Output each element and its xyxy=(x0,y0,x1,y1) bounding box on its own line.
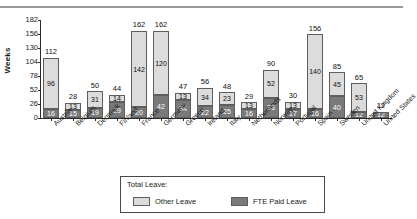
bar-total-label: 56 xyxy=(193,78,217,86)
bar-segment-other-leave[interactable]: 140 xyxy=(307,34,323,109)
bar-segment-value: 13 xyxy=(179,93,187,100)
bar-group[interactable]: 16140156 xyxy=(304,20,326,118)
bar-total-label: 50 xyxy=(83,82,107,90)
bar-segment-value: 142 xyxy=(133,66,145,73)
bar-total-label: 48 xyxy=(215,83,239,91)
bar-total-label: 90 xyxy=(259,60,283,68)
bar-group[interactable]: 252348 xyxy=(216,20,238,118)
bar-total-label: 28 xyxy=(61,93,85,101)
bar-segment-value: 14 xyxy=(113,95,121,102)
bar-segment-value: 45 xyxy=(333,81,341,88)
legend-title: Total Leave: xyxy=(127,181,167,189)
y-axis-tick-label: 156 xyxy=(25,30,38,38)
bar-total-label: 162 xyxy=(127,21,151,29)
y-axis-tick-label: 182 xyxy=(25,16,38,24)
bar-group[interactable]: 20142162 xyxy=(128,20,150,118)
bar-total-label: 85 xyxy=(325,63,349,71)
legend-item-other-leave[interactable]: Other Leave xyxy=(133,197,196,206)
bar-group[interactable]: 171330 xyxy=(282,20,304,118)
bar-segment-other-leave[interactable]: 120 xyxy=(153,31,169,96)
legend-entries: Other Leave FTE Paid Leave xyxy=(127,197,322,209)
bar-group[interactable]: 223456 xyxy=(194,20,216,118)
bar-group[interactable]: 161329 xyxy=(238,20,260,118)
y-axis-tick-label: 130 xyxy=(25,44,38,52)
bar-segment-value: 53 xyxy=(355,94,363,101)
legend-label-other-leave: Other Leave xyxy=(155,198,196,206)
bar-segment-value: 140 xyxy=(309,68,321,75)
y-axis-tick-label: 104 xyxy=(25,58,38,66)
bar-group[interactable]: 1696112 xyxy=(40,20,62,118)
bar-total-label: 29 xyxy=(237,93,261,101)
y-axis-tick-labels: 0265278104130156182 xyxy=(0,20,38,118)
legend-swatch-other-leave xyxy=(133,197,150,206)
y-axis-tick-label: 78 xyxy=(30,72,38,80)
bar-group[interactable]: 193150 xyxy=(84,20,106,118)
bar-segment-value: 13 xyxy=(245,102,253,109)
bar-segment-value: 40 xyxy=(333,104,341,111)
bar-total-label: 30 xyxy=(281,92,305,100)
bar-segment-value: 16 xyxy=(245,110,253,117)
legend-label-fte-paid-leave: FTE Paid Leave xyxy=(253,198,307,206)
bar-segment-other-leave[interactable]: 13 xyxy=(241,102,257,109)
bars-area: 1696112151328193150291444201421624212016… xyxy=(40,20,392,118)
bar-total-label: 112 xyxy=(39,48,63,56)
bar-segment-value: 120 xyxy=(155,60,167,67)
y-axis-tick-mark xyxy=(38,76,41,77)
bar-group[interactable]: 125365 xyxy=(348,20,370,118)
bar-segment-other-leave[interactable]: 34 xyxy=(197,88,213,106)
y-axis-tick-label: 26 xyxy=(30,100,38,108)
bar-total-label: 156 xyxy=(303,25,327,33)
bar-segment-other-leave[interactable]: 96 xyxy=(43,58,59,110)
bar-group[interactable]: 404585 xyxy=(326,20,348,118)
bar-segment-other-leave[interactable]: 13 xyxy=(175,93,191,100)
bar-total-label: 47 xyxy=(171,83,195,91)
y-axis-tick-mark xyxy=(38,62,41,63)
bar-group[interactable]: 42120162 xyxy=(150,20,172,118)
bar-segment-other-leave[interactable]: 14 xyxy=(109,95,125,103)
y-axis-tick-label: 52 xyxy=(30,86,38,94)
y-axis-tick-mark xyxy=(38,48,41,49)
top-divider xyxy=(0,6,403,8)
legend-item-fte-paid-leave[interactable]: FTE Paid Leave xyxy=(231,197,307,206)
bar-group[interactable]: 151328 xyxy=(62,20,84,118)
y-axis-tick-mark xyxy=(38,118,41,119)
bar-total-label: 44 xyxy=(105,85,129,93)
legend-swatch-fte-paid-leave xyxy=(231,197,248,206)
bar-segment-other-leave[interactable]: 45 xyxy=(329,72,345,96)
y-axis-tick-mark xyxy=(38,20,41,21)
y-axis-tick-mark xyxy=(38,34,41,35)
bar-segment-value: 34 xyxy=(201,94,209,101)
y-axis-tick-mark xyxy=(38,104,41,105)
bar-segment-other-leave[interactable]: 142 xyxy=(131,31,147,107)
bar-total-label: 162 xyxy=(149,21,173,29)
bar-segment-value: 16 xyxy=(47,110,55,117)
bar-segment-value: 31 xyxy=(91,96,99,103)
bar-total-label: 65 xyxy=(347,74,371,82)
chart-legend: Total Leave: Other Leave FTE Paid Leave xyxy=(120,176,325,213)
bar-segment-other-leave[interactable]: 23 xyxy=(219,92,235,104)
y-axis-tick-mark xyxy=(38,90,41,91)
bar-segment-value: 96 xyxy=(47,80,55,87)
bar-segment-other-leave[interactable]: 52 xyxy=(263,70,279,98)
bar-segment-value: 52 xyxy=(267,80,275,87)
bar-segment-value: 23 xyxy=(223,95,231,102)
